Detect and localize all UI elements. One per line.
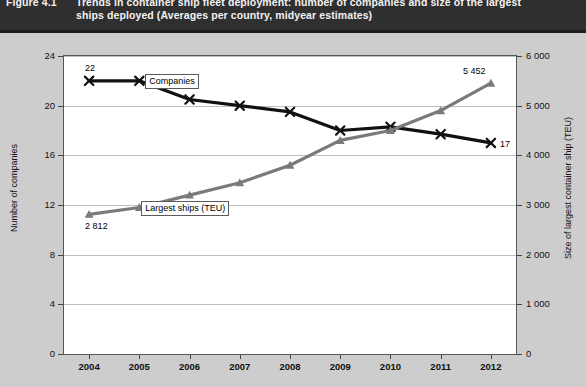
figure-title-line2: ships deployed (Averages per country, mi… bbox=[76, 9, 372, 21]
left-tick-label: 16 bbox=[25, 149, 55, 160]
x-tick-label: 2012 bbox=[466, 361, 516, 372]
x-tick-label: 2007 bbox=[215, 361, 265, 372]
right-tick-mark bbox=[517, 354, 522, 355]
x-tick-mark bbox=[290, 355, 291, 359]
x-tick-mark bbox=[340, 355, 341, 359]
x-tick-label: 2006 bbox=[165, 361, 215, 372]
x-tick-label: 2011 bbox=[416, 361, 466, 372]
left-tick-label: 12 bbox=[25, 199, 55, 210]
x-tick-label: 2004 bbox=[64, 361, 114, 372]
teu-start-label: 2 812 bbox=[85, 221, 108, 231]
x-tick-mark bbox=[491, 355, 492, 359]
right-tick-mark bbox=[517, 155, 522, 156]
right-tick-label: 1 000 bbox=[526, 298, 566, 309]
right-tick-mark bbox=[517, 205, 522, 206]
right-tick-mark bbox=[517, 255, 522, 256]
data-point-marker bbox=[486, 79, 495, 87]
left-axis-title: Number of companies bbox=[9, 68, 19, 308]
figure-body: Number of companies Size of largest cont… bbox=[0, 33, 586, 387]
right-tick-mark bbox=[517, 56, 522, 57]
companies-end-label: 17 bbox=[500, 139, 510, 149]
x-tick-label: 2009 bbox=[315, 361, 365, 372]
x-tick-mark bbox=[240, 355, 241, 359]
plot-area: 22172 8125 452 Companies Largest ships (… bbox=[63, 55, 517, 355]
figure-title-banner: Figure 4.1 Trends in container ship flee… bbox=[0, 0, 586, 30]
series-line-teu bbox=[89, 83, 491, 214]
x-tick-label: 2008 bbox=[265, 361, 315, 372]
teu-end-label: 5 452 bbox=[463, 66, 486, 76]
right-tick-label: 5 000 bbox=[526, 100, 566, 111]
x-tick-mark bbox=[139, 355, 140, 359]
companies-start-label: 22 bbox=[85, 63, 95, 73]
right-tick-label: 2 000 bbox=[526, 249, 566, 260]
left-tick-label: 0 bbox=[25, 348, 55, 359]
left-tick-label: 20 bbox=[25, 100, 55, 111]
x-tick-label: 2005 bbox=[114, 361, 164, 372]
series-label-teu: Largest ships (TEU) bbox=[141, 201, 229, 216]
left-tick-label: 8 bbox=[25, 249, 55, 260]
right-tick-label: 6 000 bbox=[526, 50, 566, 61]
x-tick-mark bbox=[190, 355, 191, 359]
right-tick-mark bbox=[517, 106, 522, 107]
figure-root: Figure 4.1 Trends in container ship flee… bbox=[0, 0, 586, 387]
x-tick-label: 2010 bbox=[365, 361, 415, 372]
right-tick-label: 3 000 bbox=[526, 199, 566, 210]
series-label-companies: Companies bbox=[145, 74, 199, 89]
left-tick-label: 24 bbox=[25, 50, 55, 61]
right-tick-label: 0 bbox=[526, 348, 566, 359]
left-tick-label: 4 bbox=[25, 298, 55, 309]
right-axis-title: Size of largest container ship (TEU) bbox=[563, 38, 573, 338]
right-tick-mark bbox=[517, 304, 522, 305]
series-lines bbox=[64, 56, 516, 354]
right-tick-label: 4 000 bbox=[526, 149, 566, 160]
x-tick-mark bbox=[89, 355, 90, 359]
figure-title-line1: Trends in container ship fleet deploymen… bbox=[76, 0, 521, 8]
figure-number: Figure 4.1 bbox=[6, 0, 57, 8]
x-tick-mark bbox=[390, 355, 391, 359]
x-tick-mark bbox=[441, 355, 442, 359]
